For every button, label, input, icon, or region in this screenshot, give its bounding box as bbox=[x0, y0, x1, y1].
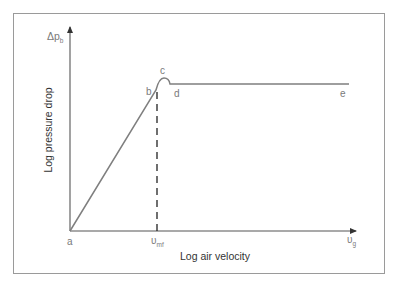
umf-label: υmf bbox=[151, 236, 164, 249]
pressure-drop-curve bbox=[70, 78, 349, 231]
point-label-e: e bbox=[340, 89, 346, 99]
point-label-c: c bbox=[160, 66, 165, 76]
x-axis-title: Log air velocity bbox=[180, 251, 250, 262]
point-label-d: d bbox=[174, 89, 180, 99]
point-label-b: b bbox=[146, 87, 152, 97]
point-label-a: a bbox=[67, 237, 73, 247]
y-axis-title: Log pressure drop bbox=[42, 87, 54, 172]
y-axis-symbol: Δpb bbox=[47, 31, 63, 45]
ug-label: υg bbox=[347, 235, 356, 248]
